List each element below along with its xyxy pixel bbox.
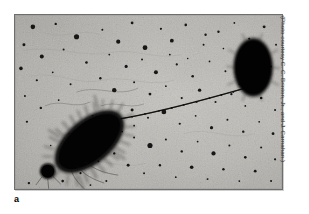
micrograph-frame	[14, 14, 283, 190]
photo-credit: (Photo courtesy C. C. Brinton, Jr., and …	[279, 16, 288, 188]
figure-panel: a (Photo courtesy C. C. Brinton, Jr., an…	[0, 0, 309, 214]
micrograph-image	[15, 15, 282, 189]
panel-letter: a	[14, 194, 19, 204]
